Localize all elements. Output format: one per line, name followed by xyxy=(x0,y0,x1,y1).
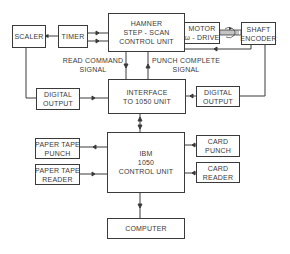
card-reader-line2: READER xyxy=(203,173,233,182)
punch-complete-line2: SIGNAL xyxy=(173,66,200,73)
hamner-label-line2: STEP - SCAN xyxy=(123,28,169,37)
hamner-label-line3: CONTROL UNIT xyxy=(119,37,174,46)
card-reader-block: CARD READER xyxy=(196,162,240,183)
card-punch-line2: PUNCH xyxy=(205,146,231,155)
digital-output-left-block: DIGITAL OUTPUT xyxy=(36,88,80,110)
hamner-control-unit-block: HAMNER STEP - SCAN CONTROL UNIT xyxy=(108,13,185,52)
digital-output-right-block: DIGITAL OUTPUT xyxy=(196,86,240,107)
ibm-label-line3: CONTROL UNIT xyxy=(119,167,174,176)
paper-tape-reader-line2: READER xyxy=(42,175,72,184)
shaft-encoder-block: SHAFT ENCODER xyxy=(241,22,276,45)
ibm-label-line1: IBM xyxy=(139,149,152,158)
paper-tape-punch-line1: PAPER TAPE xyxy=(35,140,80,149)
digital-output-right-line2: OUTPUT xyxy=(203,97,233,106)
punch-complete-line1: PUNCH COMPLETE xyxy=(152,57,220,64)
computer-label: COMPUTER xyxy=(125,224,167,233)
read-command-line1: READ COMMAND xyxy=(63,57,124,64)
interface-block: INTERFACE TO 1050 UNIT xyxy=(108,79,186,114)
digital-output-left-line2: OUTPUT xyxy=(43,99,73,108)
scaler-label: SCALER xyxy=(14,32,43,41)
paper-tape-reader-block: PAPER TAPE READER xyxy=(35,164,80,185)
card-punch-line1: CARD xyxy=(208,137,229,146)
read-command-signal-label: READ COMMAND SIGNAL xyxy=(62,56,124,74)
shaft-encoder-label-line2: ENCODER xyxy=(240,34,276,43)
digital-output-left-line1: DIGITAL xyxy=(44,90,72,99)
paper-tape-punch-line2: PUNCH xyxy=(45,149,71,158)
block-diagram: SCALER TIMER HAMNER STEP - SCAN CONTROL … xyxy=(0,0,290,254)
interface-label-line2: TO 1050 UNIT xyxy=(123,97,171,106)
card-punch-block: CARD PUNCH xyxy=(196,135,240,157)
timer-block: TIMER xyxy=(58,25,88,48)
card-reader-line1: CARD xyxy=(208,164,229,173)
computer-block: COMPUTER xyxy=(107,218,185,239)
scaler-block: SCALER xyxy=(12,25,46,48)
interface-label-line1: INTERFACE xyxy=(126,88,167,97)
paper-tape-punch-block: PAPER TAPE PUNCH xyxy=(35,138,80,159)
hamner-label-line1: HAMNER xyxy=(131,19,163,28)
digital-output-right-line1: DIGITAL xyxy=(204,88,232,97)
timer-label: TIMER xyxy=(62,32,85,41)
motor-drive-block: MOTOR ω - DRIVE xyxy=(184,22,220,44)
coupling-shaft-icon xyxy=(220,27,241,38)
ibm-label-line2: 1050 xyxy=(138,158,154,167)
read-command-line2: SIGNAL xyxy=(80,66,107,73)
motor-label-line1: MOTOR xyxy=(189,24,216,33)
ibm-1050-control-unit-block: IBM 1050 CONTROL UNIT xyxy=(107,132,185,193)
shaft-encoder-label-line1: SHAFT xyxy=(247,25,271,34)
motor-label-line2: ω - DRIVE xyxy=(185,33,220,42)
punch-complete-signal-label: PUNCH COMPLETE SIGNAL xyxy=(150,56,222,74)
paper-tape-reader-line1: PAPER TAPE xyxy=(35,166,80,175)
